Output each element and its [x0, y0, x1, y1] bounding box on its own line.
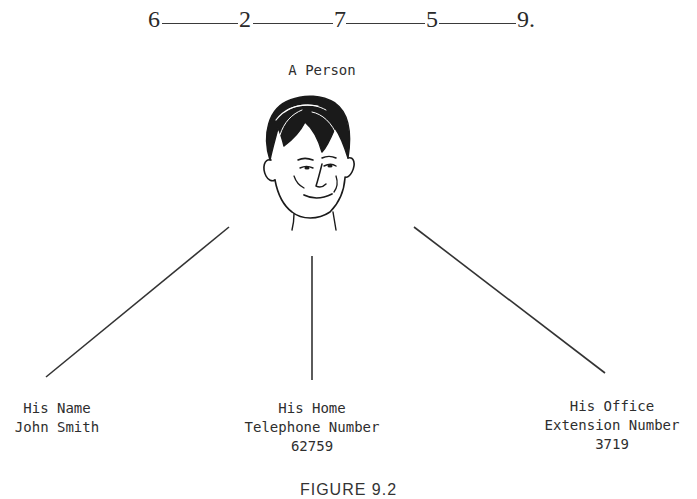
- branch-label-office-extension: His Office Extension Number 3719: [527, 397, 697, 454]
- connector-line-name: [46, 227, 229, 377]
- branch-office-subheading: Extension Number: [527, 416, 697, 435]
- branch-home-value: 62759: [222, 437, 402, 456]
- branch-home-heading: His Home: [222, 399, 402, 418]
- branch-label-name: His Name John Smith: [0, 399, 116, 437]
- branch-home-subheading: Telephone Number: [222, 418, 402, 437]
- figure-caption: FIGURE 9.2: [0, 481, 697, 499]
- branch-name-value: John Smith: [0, 418, 116, 437]
- branch-name-heading: His Name: [0, 399, 116, 418]
- branch-office-value: 3719: [527, 435, 697, 454]
- branch-office-heading: His Office: [527, 397, 697, 416]
- face-sketch-icon: [264, 96, 354, 230]
- connector-line-office-extension: [414, 227, 605, 373]
- branch-label-home-phone: His Home Telephone Number 62759: [222, 399, 402, 456]
